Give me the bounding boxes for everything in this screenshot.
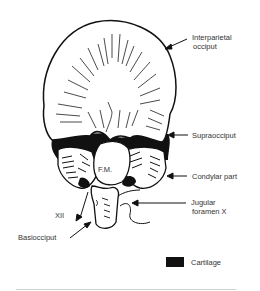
basiocciput <box>91 186 118 228</box>
label-interparietal-occiput: Interparietal occiput <box>192 33 232 51</box>
label-line-2: occiput <box>192 42 232 51</box>
label-line-2: foramen X <box>191 207 227 216</box>
foramen-magnum <box>94 141 130 184</box>
label-line-1: Jugular <box>191 198 227 207</box>
bottom-divider <box>16 289 236 290</box>
interparietal-occiput <box>43 21 176 142</box>
label-supraocciput: Supraocciput <box>192 131 236 140</box>
label-line-1: Interparietal <box>192 33 232 42</box>
label-foramen-magnum: F.M. <box>98 165 112 174</box>
label-basiocciput: Basiocciput <box>18 233 56 242</box>
label-jugular-foramen: Jugular foramen X <box>191 198 227 216</box>
legend-cartilage-swatch <box>166 257 184 267</box>
label-xii: XII <box>55 211 64 220</box>
legend-cartilage-label: Cartilage <box>191 258 221 267</box>
label-condylar-part: Condylar part <box>192 172 237 181</box>
